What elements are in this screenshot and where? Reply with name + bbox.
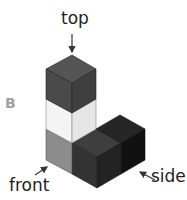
isometric-cube-structure — [0, 0, 187, 200]
front-arrow-icon — [35, 167, 47, 175]
side-arrow-icon — [140, 172, 155, 180]
